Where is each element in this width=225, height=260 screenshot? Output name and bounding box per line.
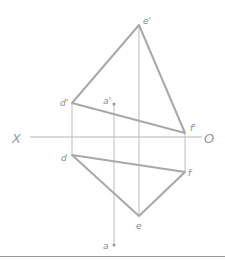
- point-a-prime: [113, 103, 116, 106]
- point-a: [113, 244, 116, 247]
- label-a: a: [103, 241, 109, 251]
- label-e-prime: e': [143, 16, 151, 26]
- label-d: d: [61, 153, 67, 163]
- axis-label-o: O: [204, 131, 214, 146]
- label-d-prime: d': [60, 98, 68, 108]
- label-f-prime: f': [190, 123, 196, 133]
- front-view-triangle: [72, 25, 185, 133]
- top-view-triangle: [72, 155, 185, 216]
- axis-label-x: X: [11, 131, 22, 146]
- label-e: e: [136, 221, 142, 231]
- label-a-prime: a': [103, 96, 111, 106]
- label-f: f: [188, 168, 193, 178]
- diagram-canvas: X O e' d' f' a' d f e a: [0, 0, 225, 260]
- projection-diagram: X O e' d' f' a' d f e a: [0, 0, 225, 260]
